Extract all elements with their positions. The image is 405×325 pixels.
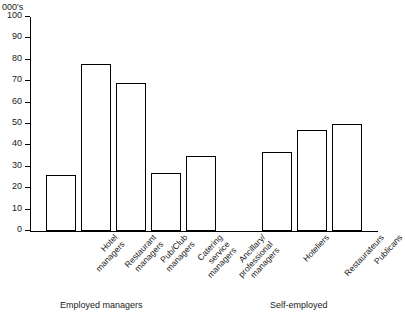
bar: [297, 130, 327, 231]
y-axis-tick-label: 10: [12, 203, 22, 213]
bar: [262, 152, 292, 231]
y-axis-tick-label: 70: [12, 74, 22, 84]
y-axis-tick-label: 90: [12, 31, 22, 41]
x-axis-category-label: Restaurantmanagers: [123, 233, 165, 276]
bar: [46, 175, 76, 231]
y-axis-tick-label: 20: [12, 181, 22, 191]
y-axis-tick-label: 0: [17, 224, 22, 234]
y-axis-tick-label: 60: [12, 96, 22, 106]
bar: [151, 173, 181, 231]
y-axis-tick-label: 50: [12, 117, 22, 127]
group-caption-self-employed: Self-employed: [270, 300, 328, 310]
bar-series: [30, 17, 378, 232]
x-axis-category-label: Ancillary/professionalmanagers: [230, 233, 282, 286]
x-axis-category-label: Hoteliers: [302, 233, 332, 264]
y-axis-tick-label: 80: [12, 53, 22, 63]
y-axis-tick-label: 100: [7, 10, 22, 20]
label-line: Hoteliers: [302, 233, 332, 264]
group-caption-employed-managers: Employed managers: [60, 300, 143, 310]
plot-area: 0102030405060708090100: [30, 17, 378, 232]
bar: [81, 64, 111, 231]
x-axis-category-label: Pub/Clubmanagers: [157, 233, 197, 274]
bar: [116, 83, 146, 231]
bar: [186, 156, 216, 231]
x-axis-category-label: Cateringservicemanagers: [192, 233, 239, 280]
x-axis-category-labels: HotelmanagersRestaurantmanagersPub/Clubm…: [30, 233, 378, 295]
x-axis-category-label: Hotelmanagers: [87, 233, 127, 274]
bar: [332, 124, 362, 231]
y-axis-tick-label: 30: [12, 160, 22, 170]
y-axis-tick-label: 40: [12, 138, 22, 148]
